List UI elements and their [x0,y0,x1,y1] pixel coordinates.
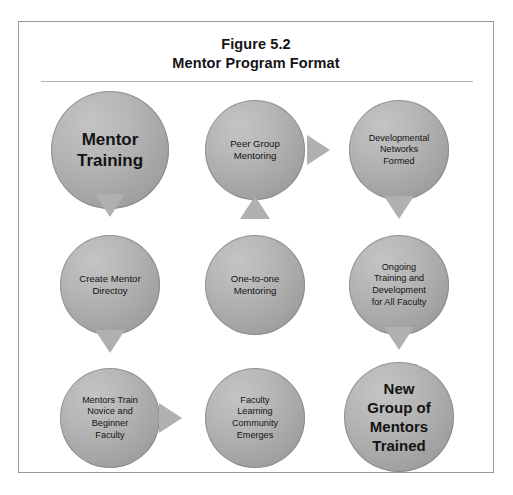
node-create-mentor-directory[interactable]: Create Mentor Directoy [60,235,160,335]
node-label: Mentor Training [71,129,149,171]
node-label: Ongoing Training and Development for All… [366,262,433,308]
node-new-group-of-mentors-trained[interactable]: New Group of Mentors Trained [344,362,454,472]
arrow-right-icon-peer-group-to-developmental-networks [307,135,330,165]
arrow-up-icon-one-to-one-to-peer-group [240,196,270,219]
figure-title-line-1: Figure 5.2 [19,35,493,54]
node-developmental-networks-formed[interactable]: Developmental Networks Formed [349,100,449,200]
figure-title-line-2: Mentor Program Format [19,54,493,73]
node-mentors-train-novice[interactable]: Mentors Train Novice and Beginner Facult… [60,368,160,468]
node-one-to-one-mentoring[interactable]: One-to-one Mentoring [205,235,305,335]
arrow-down-icon-mentor-training-to-create-directory [95,194,125,217]
node-ongoing-training[interactable]: Ongoing Training and Development for All… [349,235,449,335]
node-label: One-to-one Mentoring [225,273,286,297]
node-peer-group-mentoring[interactable]: Peer Group Mentoring [205,100,305,200]
node-label: Faculty Learning Community Emerges [226,395,284,441]
node-label: Mentors Train Novice and Beginner Facult… [76,395,144,441]
arrow-down-icon-create-directory-to-mentors-train [95,330,125,353]
node-label: New Group of Mentors Trained [361,379,436,455]
node-label: Developmental Networks Formed [363,133,436,168]
node-faculty-learning-community[interactable]: Faculty Learning Community Emerges [205,368,305,468]
arrow-down-icon-ongoing-to-new-group [384,327,414,350]
title-divider [41,81,473,82]
node-label: Peer Group Mentoring [224,138,286,162]
arrow-right-icon-mentors-train-to-faculty-learning [159,403,182,433]
figure-title: Figure 5.2 Mentor Program Format [19,35,493,73]
arrow-down-icon-developmental-networks-to-ongoing [384,196,414,219]
figure-frame: Figure 5.2 Mentor Program Format Mentor … [18,21,494,473]
node-mentor-training[interactable]: Mentor Training [51,91,169,209]
node-label: Create Mentor Directoy [73,273,146,297]
